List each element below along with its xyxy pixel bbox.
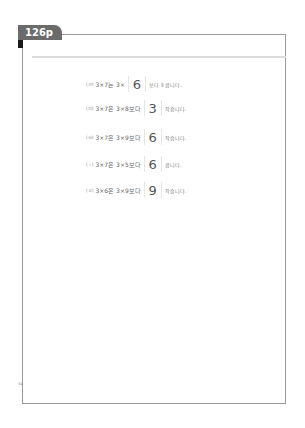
row-expression: 3×7은 3×5보다 [96, 160, 141, 169]
row-marker: (ㅅ) [86, 161, 94, 167]
row-marker: (ㅁ) [86, 105, 94, 111]
row-suffix: 작습니다. [165, 134, 187, 141]
row-suffix: 큽니다. [165, 161, 182, 168]
row-expression: 3×7은 3×9보다 [96, 133, 141, 142]
page-number: 34 [18, 382, 22, 386]
row-marker: (ㄹ) [86, 81, 94, 87]
answer-box: 6 [144, 156, 162, 172]
answer-row-4: (ㅅ) 3×7은 3×5보다 6 큽니다. [86, 156, 181, 172]
row-expression: 3×7은 3×8보다 [96, 104, 141, 113]
header-divider [32, 56, 286, 58]
row-suffix: 보다 3 큽니다. [149, 81, 182, 88]
row-suffix: 작습니다. [165, 187, 187, 194]
answer-box: 9 [144, 182, 162, 198]
answer-row-1: (ㄹ) 3×7는 3× 6 보다 3 큽니다. [86, 76, 182, 92]
answer-box: 6 [128, 76, 146, 92]
row-marker: (ㅂ) [86, 134, 94, 140]
answer-box: 3 [144, 100, 162, 116]
answer-row-3: (ㅂ) 3×7은 3×9보다 6 작습니다. [86, 129, 186, 145]
page-tab-label: 126p [25, 27, 53, 38]
answer-row-5: (ㅇ) 3×6은 3×9보다 9 작습니다. [86, 182, 186, 198]
answer-row-2: (ㅁ) 3×7은 3×8보다 3 작습니다. [86, 100, 186, 116]
row-suffix: 작습니다. [165, 105, 187, 112]
answer-box: 6 [144, 129, 162, 145]
tab-corner-mark [18, 40, 23, 48]
page-tab: 126p [18, 25, 62, 40]
row-expression: 3×7는 3× [96, 80, 125, 89]
row-expression: 3×6은 3×9보다 [96, 186, 141, 195]
row-marker: (ㅇ) [86, 187, 94, 193]
